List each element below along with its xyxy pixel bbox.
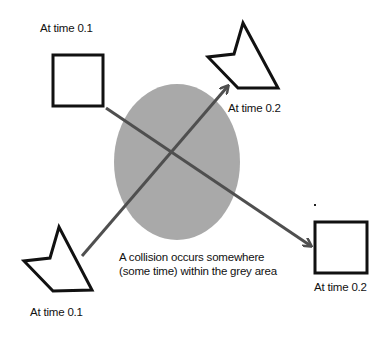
caption-line-1: A collision occurs somewhere <box>119 250 277 264</box>
kite-at-start <box>24 227 92 291</box>
kite-at-end <box>208 23 278 88</box>
label-square-start: At time 0.1 <box>40 22 93 34</box>
label-kite-start: At time 0.1 <box>30 306 83 318</box>
square-at-end <box>315 222 367 273</box>
caption: A collision occurs somewhere (some time)… <box>119 250 277 278</box>
collision-region <box>114 84 240 240</box>
label-square-end: At time 0.2 <box>314 281 367 293</box>
square-at-start <box>53 55 103 106</box>
stray-dot <box>314 204 316 206</box>
caption-line-2: (some time) within the grey area <box>119 264 277 278</box>
label-kite-end: At time 0.2 <box>228 102 281 114</box>
